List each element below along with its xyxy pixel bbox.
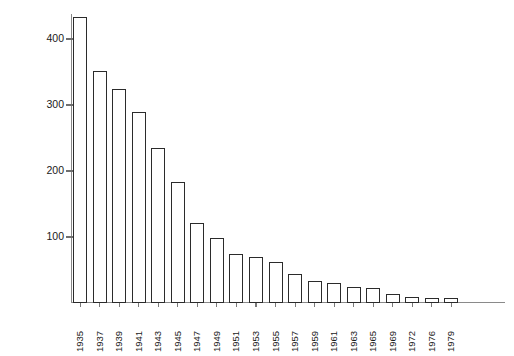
bar-1959 [308, 281, 322, 303]
x-tick-1961 [334, 303, 335, 307]
x-tick-label-1963: 1963 [347, 312, 361, 352]
bar-1969 [386, 294, 400, 303]
x-tick-label-1957: 1957 [288, 312, 302, 352]
x-tick-1947 [197, 303, 198, 307]
bar-1943 [151, 148, 165, 303]
bar-1949 [210, 238, 224, 303]
x-tick-label-1947: 1947 [190, 312, 204, 352]
bar-1957 [288, 274, 302, 303]
x-tick-1976 [431, 303, 432, 307]
x-tick-1969 [392, 303, 393, 307]
x-tick-label-1939: 1939 [112, 312, 126, 352]
x-tick-1959 [314, 303, 315, 307]
bar-1939 [112, 89, 126, 304]
bar-1955 [269, 262, 283, 303]
x-tick-1953 [255, 303, 256, 307]
x-tick-label-1935: 1935 [73, 312, 87, 352]
x-tick-label-1972: 1972 [405, 312, 419, 352]
x-tick-label-1937: 1937 [93, 312, 107, 352]
x-tick-label-1969: 1969 [386, 312, 400, 352]
x-tick-1943 [158, 303, 159, 307]
x-tick-1972 [412, 303, 413, 307]
x-tick-1965 [373, 303, 374, 307]
x-tick-label-1945: 1945 [171, 312, 185, 352]
bar-1941 [132, 112, 146, 303]
x-tick-1945 [177, 303, 178, 307]
bar-1951 [229, 254, 243, 304]
bar-series [0, 0, 514, 356]
bar-1953 [249, 257, 263, 303]
x-tick-label-1955: 1955 [269, 312, 283, 352]
mortality-rate-bar-chart: Mortality rate 100200300400 193519371939… [0, 0, 514, 356]
x-tick-label-1961: 1961 [327, 312, 341, 352]
x-tick-label-1965: 1965 [366, 312, 380, 352]
bar-1945 [171, 182, 185, 303]
x-tick-1955 [275, 303, 276, 307]
x-tick-label-1976: 1976 [425, 312, 439, 352]
bar-1961 [327, 283, 341, 303]
bar-1947 [190, 223, 204, 303]
x-tick-1979 [451, 303, 452, 307]
x-tick-1935 [80, 303, 81, 307]
x-tick-1939 [119, 303, 120, 307]
x-tick-label-1941: 1941 [132, 312, 146, 352]
x-tick-label-1953: 1953 [249, 312, 263, 352]
x-tick-1951 [236, 303, 237, 307]
x-tick-1937 [99, 303, 100, 307]
x-tick-1941 [138, 303, 139, 307]
x-tick-1957 [295, 303, 296, 307]
x-tick-label-1951: 1951 [229, 312, 243, 352]
bar-1963 [347, 287, 361, 303]
x-tick-label-1949: 1949 [210, 312, 224, 352]
bar-1937 [93, 71, 107, 303]
x-tick-1949 [216, 303, 217, 307]
bar-1965 [366, 288, 380, 303]
x-tick-label-1979: 1979 [444, 312, 458, 352]
x-tick-label-1943: 1943 [151, 312, 165, 352]
x-tick-1963 [353, 303, 354, 307]
bar-1935 [73, 17, 87, 303]
x-tick-label-1959: 1959 [308, 312, 322, 352]
